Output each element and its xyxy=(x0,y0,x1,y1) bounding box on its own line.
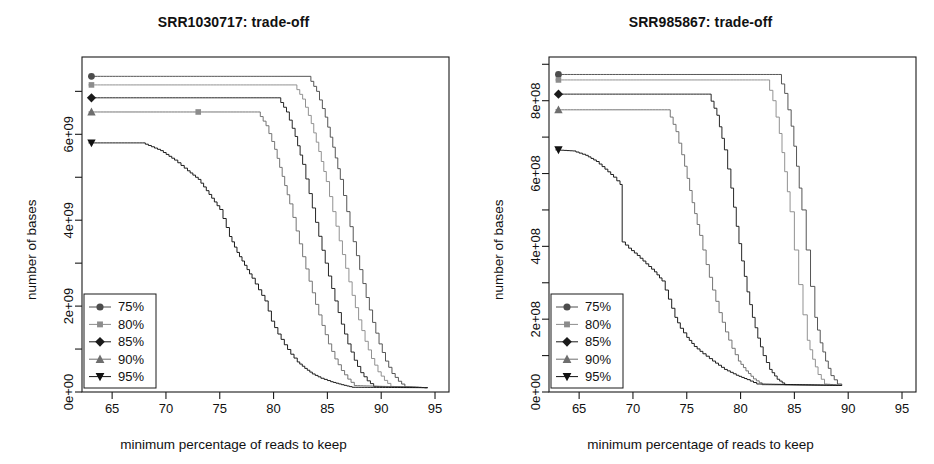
y-axis: 0e+002e+094e+096e+09 xyxy=(61,91,82,410)
x-axis: 65707580859095 xyxy=(572,392,909,416)
legend-label: 95% xyxy=(585,369,611,384)
legend[interactable]: 75%80%85%90%95% xyxy=(551,294,623,388)
y-tick-label: 4e+08 xyxy=(528,228,543,265)
x-tick-label: 90 xyxy=(841,401,855,416)
legend-label: 90% xyxy=(585,352,611,367)
y-tick-label: 6e+09 xyxy=(61,116,76,153)
x-tick-label: 90 xyxy=(374,401,388,416)
marker-circle xyxy=(555,71,562,78)
x-tick-label: 85 xyxy=(787,401,801,416)
marker-circle xyxy=(96,303,103,310)
x-tick-label: 80 xyxy=(266,401,280,416)
x-tick-label: 75 xyxy=(213,401,227,416)
marker-square xyxy=(564,321,570,327)
y-tick-label: 2e+09 xyxy=(61,288,76,325)
y-tick-label: 8e+08 xyxy=(528,82,543,119)
y-tick-label: 0e+00 xyxy=(528,374,543,411)
x-tick-label: 70 xyxy=(626,401,640,416)
y-tick-label: 2e+08 xyxy=(528,301,543,338)
y-tick-label: 6e+08 xyxy=(528,155,543,192)
legend-label: 90% xyxy=(118,352,144,367)
legend-label: 85% xyxy=(118,334,144,349)
x-tick-label: 95 xyxy=(428,401,442,416)
marker-square xyxy=(89,82,95,88)
legend-label: 80% xyxy=(118,317,144,332)
marker-circle xyxy=(563,303,570,310)
y-axis: 0e+002e+084e+086e+088e+08 xyxy=(528,64,549,410)
plot-area-right: 0e+002e+084e+086e+088e+08657075808590957… xyxy=(467,0,934,464)
marker-square xyxy=(195,109,201,115)
x-tick-label: 65 xyxy=(572,401,586,416)
y-tick-label: 0e+00 xyxy=(61,374,76,411)
x-tick-label: 95 xyxy=(895,401,909,416)
marker-square xyxy=(556,77,562,83)
legend-label: 85% xyxy=(585,334,611,349)
x-tick-label: 65 xyxy=(105,401,119,416)
plot-area-left: 0e+002e+094e+096e+096570758085909575%80%… xyxy=(0,0,467,464)
legend-label: 75% xyxy=(118,299,144,314)
y-tick-label: 4e+09 xyxy=(61,202,76,239)
legend-label: 75% xyxy=(585,299,611,314)
x-tick-label: 80 xyxy=(733,401,747,416)
x-axis: 65707580859095 xyxy=(105,392,442,416)
marker-diamond xyxy=(554,90,563,99)
x-tick-label: 70 xyxy=(159,401,173,416)
legend[interactable]: 75%80%85%90%95% xyxy=(84,294,156,388)
panel-srr1030717: SRR1030717: trade-off number of bases mi… xyxy=(0,0,467,464)
x-tick-label: 75 xyxy=(680,401,694,416)
marker-circle xyxy=(88,73,95,80)
legend-label: 80% xyxy=(585,317,611,332)
marker-square xyxy=(97,321,103,327)
marker-diamond xyxy=(87,93,96,102)
panel-srr985867: SRR985867: trade-off number of bases min… xyxy=(467,0,934,464)
x-tick-label: 85 xyxy=(320,401,334,416)
series-80pct-midmarker xyxy=(195,109,201,115)
legend-label: 95% xyxy=(118,369,144,384)
trade-off-figure: SRR1030717: trade-off number of bases mi… xyxy=(0,0,934,464)
